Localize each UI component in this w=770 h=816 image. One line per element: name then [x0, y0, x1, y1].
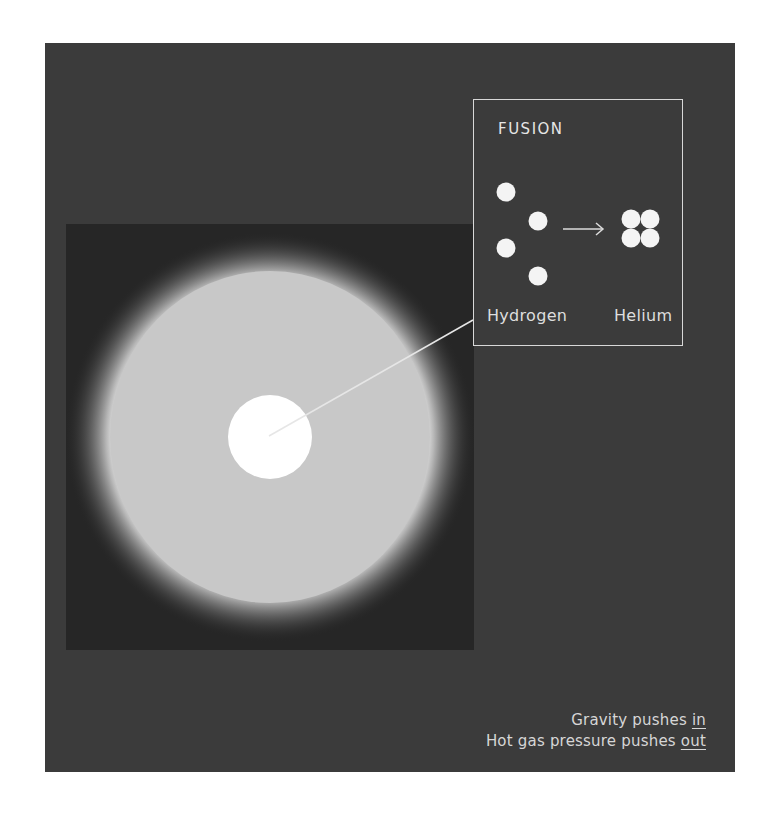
star-backdrop-square — [66, 224, 474, 650]
pressure-caption-emphasis: out — [681, 732, 706, 750]
fusion-title: FUSION — [498, 120, 564, 138]
pressure-caption-text: Hot gas pressure pushes — [486, 732, 681, 750]
pressure-caption: Hot gas pressure pushes out — [486, 732, 706, 750]
fusion-inset-box: FUSION Hydrogen Helium — [473, 99, 683, 346]
gravity-caption-text: Gravity pushes — [571, 711, 692, 729]
helium-label: Helium — [614, 306, 672, 325]
gravity-caption-emphasis: in — [692, 711, 706, 729]
hydrogen-label: Hydrogen — [487, 306, 567, 325]
gravity-caption: Gravity pushes in — [571, 711, 706, 729]
